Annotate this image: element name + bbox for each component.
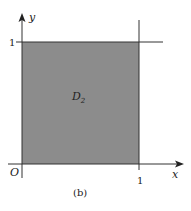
x-axis-label: x — [172, 168, 179, 181]
y-tick-1: 1 — [9, 37, 15, 48]
caption: (b) — [73, 187, 87, 198]
diagram: y 1 D2 O 1 x (b) — [0, 0, 191, 211]
y-axis-label: y — [28, 11, 36, 24]
x-tick-1: 1 — [137, 175, 143, 186]
origin-label: O — [10, 166, 19, 179]
